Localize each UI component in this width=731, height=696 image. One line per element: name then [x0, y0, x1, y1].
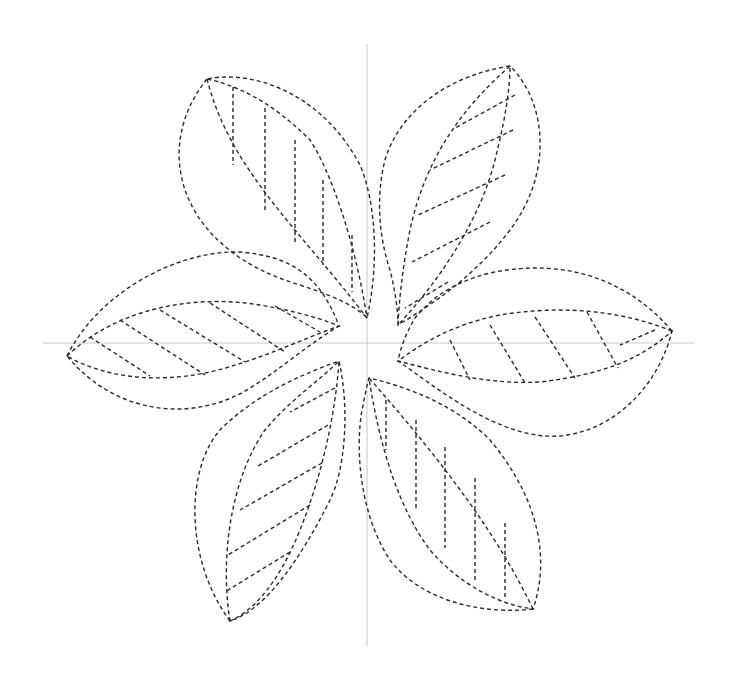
pattern-canvas — [0, 0, 731, 696]
background — [0, 0, 731, 696]
